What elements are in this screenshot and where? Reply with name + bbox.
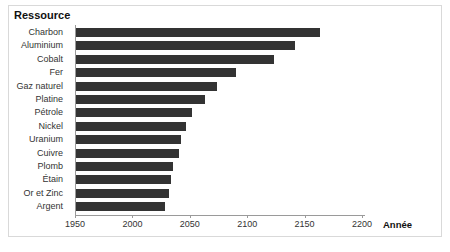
bar-row: Pétrole: [0, 107, 440, 118]
x-tick-mark: [305, 215, 306, 218]
bar: [76, 82, 217, 91]
bar-row: Aluminium: [0, 40, 440, 51]
bar-row: Plomb: [0, 161, 440, 172]
bar-row: Cuivre: [0, 148, 440, 159]
bar: [76, 95, 205, 104]
x-tick-label: 2200: [352, 219, 372, 229]
bar: [76, 189, 169, 198]
bar: [76, 122, 186, 131]
bar: [76, 175, 171, 184]
bar-row: Argent: [0, 201, 440, 212]
chart-screenshot: Ressource 195020002050210021502200 Charb…: [0, 0, 450, 252]
bar-chart: Ressource 195020002050210021502200 Charb…: [0, 0, 450, 252]
chart-title: Ressource: [14, 9, 70, 21]
x-tick-label: 2000: [122, 219, 142, 229]
bar-row: Charbon: [0, 27, 440, 38]
bar: [76, 149, 179, 158]
x-tick-mark: [132, 215, 133, 218]
category-label: Aluminium: [0, 40, 63, 51]
category-label: Plomb: [0, 161, 63, 172]
bar: [76, 28, 320, 37]
x-tick-mark: [362, 215, 363, 218]
bar: [76, 108, 192, 117]
bar: [76, 41, 295, 50]
bar: [76, 135, 181, 144]
category-label: Pétrole: [0, 107, 63, 118]
bar-row: Uranium: [0, 134, 440, 145]
category-label: Étain: [0, 174, 63, 185]
x-tick-label: 2150: [295, 219, 315, 229]
bar-row: Platine: [0, 94, 440, 105]
category-label: Uranium: [0, 134, 63, 145]
x-axis-line: [75, 215, 365, 216]
category-label: Fer: [0, 67, 63, 78]
x-tick-mark: [190, 215, 191, 218]
category-label: Nickel: [0, 121, 63, 132]
bar-row: Or et Zinc: [0, 188, 440, 199]
bar: [76, 68, 236, 77]
x-tick-label: 1950: [65, 219, 85, 229]
x-tick-label: 2100: [237, 219, 257, 229]
category-label: Charbon: [0, 27, 63, 38]
bar: [76, 162, 173, 171]
category-label: Platine: [0, 94, 63, 105]
bar-row: Cobalt: [0, 54, 440, 65]
bar: [76, 202, 165, 211]
x-axis-title: Année: [383, 219, 412, 230]
bar-row: Étain: [0, 174, 440, 185]
x-tick-label: 2050: [180, 219, 200, 229]
category-label: Cuivre: [0, 148, 63, 159]
x-tick-mark: [247, 215, 248, 218]
category-label: Argent: [0, 201, 63, 212]
category-label: Cobalt: [0, 54, 63, 65]
bar-row: Fer: [0, 67, 440, 78]
category-label: Gaz naturel: [0, 81, 63, 92]
bar-row: Nickel: [0, 121, 440, 132]
category-label: Or et Zinc: [0, 188, 63, 199]
x-tick-mark: [75, 215, 76, 218]
bar: [76, 55, 274, 64]
bar-row: Gaz naturel: [0, 81, 440, 92]
